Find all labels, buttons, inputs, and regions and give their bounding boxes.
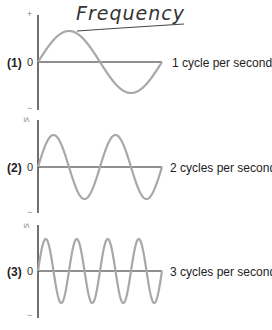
minus-sign: − — [27, 310, 32, 320]
minus-sign: − — [27, 207, 32, 217]
panel-3-caption: 3 cycles per second — [170, 265, 272, 279]
panel-3-marker: ≤ — [22, 224, 32, 229]
panel-2-zero: 0 — [27, 161, 33, 173]
panel-3-zero: 0 — [27, 265, 33, 277]
minus-sign: − — [27, 103, 32, 113]
panel-1 — [38, 15, 162, 110]
panel-2-caption: 2 cycles per second — [170, 161, 272, 175]
panel-1-zero: 0 — [27, 56, 33, 68]
panel-3 — [38, 225, 162, 318]
panel-3-label: (3) — [7, 265, 22, 279]
panel-2-label: (2) — [7, 161, 22, 175]
panel-2 — [38, 120, 162, 213]
panel-2-marker: ≤ — [22, 118, 32, 123]
panel-1-caption: 1 cycle per second — [172, 56, 272, 70]
plus-sign: + — [27, 9, 32, 19]
panel-1-label: (1) — [7, 56, 22, 70]
